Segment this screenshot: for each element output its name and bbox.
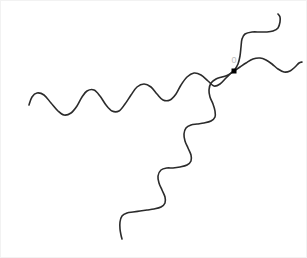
node-label-group: 0 [231, 55, 236, 65]
node-marker-group [232, 69, 237, 74]
canvas-background [1, 1, 307, 258]
node-marker-square[interactable] [232, 69, 237, 74]
node-label-text: 0 [231, 55, 236, 65]
diagram-canvas: 0 [1, 1, 307, 258]
figure-root: 0 [0, 0, 307, 258]
